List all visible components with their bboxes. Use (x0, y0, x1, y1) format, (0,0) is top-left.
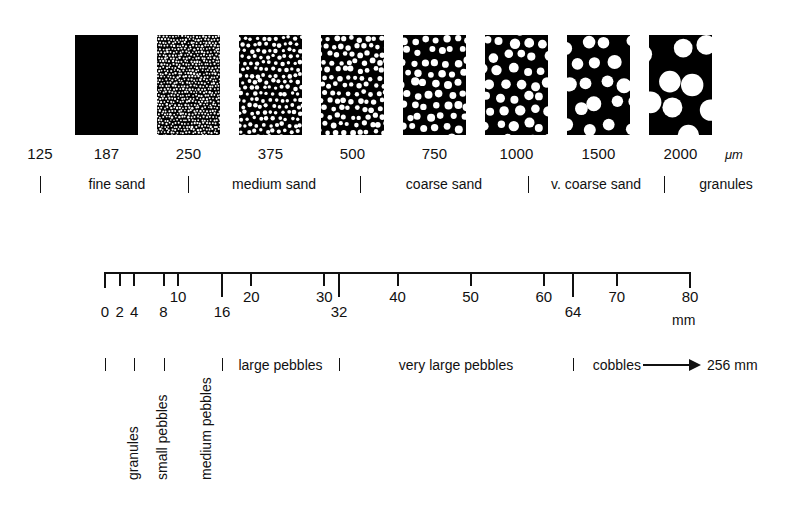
micron-label-125: 125 (15, 145, 65, 162)
ruler-tick-50mm (470, 272, 472, 286)
ruler-tick-label-8mm: 8 (144, 303, 184, 320)
sand-class-separator-3 (528, 176, 529, 193)
ruler-tick-64mm (572, 272, 574, 297)
ruler-tick-label-40mm: 40 (378, 288, 418, 305)
cobbles-upper-limit-label: 256 mm (707, 357, 758, 373)
ruler-tick-label-20mm: 20 (231, 288, 271, 305)
sand-class-separator-4 (664, 176, 665, 193)
micron-label-1500: 1500 (567, 145, 630, 162)
ruler-tick-label-10mm: 10 (158, 288, 198, 305)
pebble-class-label-granules: granules (125, 426, 141, 480)
ruler-tick-32mm (338, 272, 340, 297)
pebble-separator-64mm (573, 358, 574, 371)
micron-label-750: 750 (403, 145, 466, 162)
sand-class-label-coarse-sand: coarse sand (362, 176, 526, 192)
micron-unit-label: μm (725, 147, 743, 162)
sand-swatch-187 (75, 35, 138, 135)
ruler-tick-2mm (119, 272, 121, 286)
ruler-tick-label-64mm: 64 (553, 303, 593, 320)
cobbles-arrow-shaft (643, 364, 693, 366)
sand-swatch-375 (239, 35, 302, 135)
sand-swatch-500 (321, 35, 384, 135)
ruler-tick-70mm (616, 272, 618, 286)
sand-class-separator-2 (360, 176, 361, 193)
pebble-class-label-large-pebbles: large pebbles (238, 357, 322, 373)
ruler-tick-40mm (397, 272, 399, 286)
ruler-tick-30mm (323, 272, 325, 286)
pebble-class-label-small-pebbles: small pebbles (154, 394, 170, 480)
sand-class-label-fine-sand: fine sand (48, 176, 186, 192)
sand-swatch-250 (157, 35, 220, 135)
pebble-separator-8mm (164, 358, 165, 371)
ruler-tick-label-80mm: 80 (670, 288, 710, 305)
ruler-tick-label-16mm: 16 (202, 303, 242, 320)
ruler-tick-4mm (133, 272, 135, 286)
ruler-tick-16mm (221, 272, 223, 297)
ruler-tick-20mm (250, 272, 252, 286)
pebble-class-label-very-large-pebbles: very large pebbles (399, 357, 513, 373)
pebble-separator-0mm (105, 358, 106, 371)
sand-swatch-1000 (485, 35, 548, 135)
sand-swatch-2000 (649, 35, 712, 135)
pebble-class-label-cobbles: cobbles (593, 357, 641, 373)
figure-canvas: 125 187250375500750100015002000 μm fine … (0, 0, 794, 510)
sand-class-label-v-coarse-sand: v. coarse sand (530, 176, 662, 192)
micron-label-375: 375 (239, 145, 302, 162)
micron-label-1000: 1000 (485, 145, 548, 162)
pebble-separator-4mm (134, 358, 135, 371)
ruler-tick-label-50mm: 50 (451, 288, 491, 305)
cobbles-arrow-head (689, 359, 701, 371)
sand-class-separator-1 (188, 176, 189, 193)
sand-class-label-medium-sand: medium sand (190, 176, 358, 192)
ruler-end-cap-left (104, 272, 106, 288)
ruler-tick-8mm (163, 272, 165, 286)
sand-swatch-1500 (567, 35, 630, 135)
pebble-separator-16mm (222, 358, 223, 371)
micron-label-500: 500 (321, 145, 384, 162)
sand-class-separator-0 (40, 176, 41, 193)
ruler-tick-10mm (177, 272, 179, 286)
pebble-class-label-medium-pebbles: medium pebbles (198, 377, 214, 480)
micron-label-187: 187 (75, 145, 138, 162)
ruler-end-cap-right (689, 272, 691, 288)
micron-label-2000: 2000 (649, 145, 712, 162)
mm-unit-label: mm (672, 312, 695, 328)
sand-class-label-granules: granules (666, 176, 786, 192)
ruler-tick-label-32mm: 32 (319, 303, 359, 320)
micron-label-250: 250 (157, 145, 220, 162)
pebble-separator-32mm (339, 358, 340, 371)
sand-swatch-750 (403, 35, 466, 135)
ruler-tick-60mm (543, 272, 545, 286)
ruler-tick-label-70mm: 70 (597, 288, 637, 305)
